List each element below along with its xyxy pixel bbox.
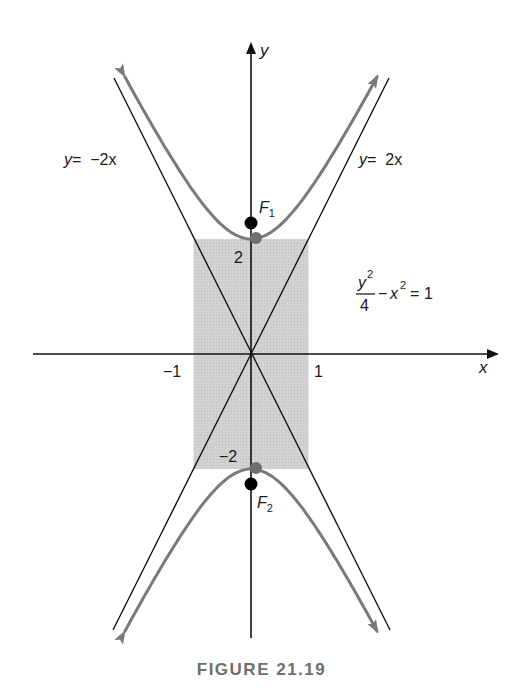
svg-text:2: 2	[400, 279, 406, 291]
focus-f1-label: F1	[259, 199, 275, 219]
x-axis-label: x	[478, 358, 488, 377]
svg-text:y: y	[357, 274, 367, 291]
svg-text:2: 2	[367, 268, 373, 280]
y-axis-label: y	[259, 41, 270, 60]
vertex-upper	[250, 232, 262, 244]
svg-text:=: =	[410, 285, 419, 302]
equation-label: y 2 4 − x 2 = 1	[356, 268, 433, 314]
focus-f2-label: F2	[257, 494, 273, 514]
hyperbola-figure: y x −1 1 2 −2 F1 F2 y= −2x y= 2x y 2 4 −…	[0, 0, 523, 694]
focus-f2	[245, 478, 258, 491]
x-tick-1: 1	[314, 363, 323, 380]
figure-caption: FIGURE 21.19	[0, 660, 523, 680]
asymptote-neg-label: y= −2x	[63, 151, 116, 168]
x-tick-neg1: −1	[163, 363, 181, 380]
svg-text:4: 4	[360, 297, 369, 314]
y-tick-neg2: −2	[219, 448, 237, 465]
svg-text:1: 1	[424, 285, 433, 302]
svg-text:−: −	[378, 285, 387, 302]
vertex-lower	[250, 462, 262, 474]
asymptote-pos-label: y= 2x	[358, 151, 402, 168]
focus-f1	[245, 217, 258, 230]
svg-text:x: x	[389, 285, 399, 302]
y-tick-2: 2	[234, 249, 243, 266]
